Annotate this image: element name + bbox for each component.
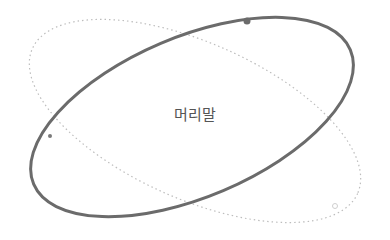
center-label: 머리말 xyxy=(0,103,390,124)
orbit-node-top[interactable] xyxy=(244,18,251,25)
orbit-node-bottom-right[interactable] xyxy=(333,204,338,209)
orbit-node-left[interactable] xyxy=(48,134,52,138)
